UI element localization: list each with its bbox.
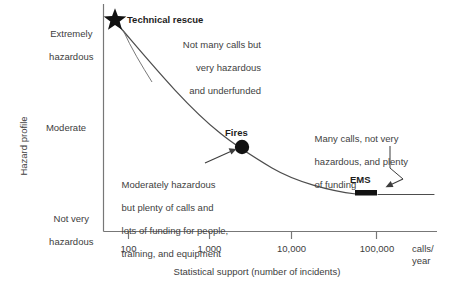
x-axis-unit-line1: calls/ xyxy=(412,243,434,254)
y-axis-title: Hazard profile xyxy=(18,86,29,206)
annotation-fires-line2: but plenty of calls and xyxy=(122,202,214,213)
y-category-not-very-hazardous: Not very hazardous xyxy=(34,201,98,259)
annotation-ems-line2: hazardous, and plenty xyxy=(315,156,408,167)
point-label-technical-rescue: Technical rescue xyxy=(127,14,203,26)
annotation-technical-rescue: Not many calls but very hazardous and un… xyxy=(120,27,261,108)
annotation-fires-line3: lots of funding for people, xyxy=(122,225,229,236)
y-category-extremely-hazardous-line2: hazardous xyxy=(49,51,93,62)
point-label-fires: Fires xyxy=(225,127,248,139)
annotation-technical-rescue-line1: Not many calls but xyxy=(183,39,261,50)
x-axis-unit-label: calls/ year xyxy=(412,243,457,266)
annotation-fires-line4: training, and equipment xyxy=(122,248,221,259)
annotation-ems-line1: Many calls, not very xyxy=(315,133,399,144)
fires-circle-marker xyxy=(235,140,249,154)
y-category-extremely-hazardous: Extremely hazardous xyxy=(34,16,98,74)
fires-leader-arrow xyxy=(205,148,237,163)
annotation-technical-rescue-line3: and underfunded xyxy=(189,85,261,96)
x-tick-label-10000: 10,000 xyxy=(267,243,316,255)
x-tick-label-100000: 100,000 xyxy=(351,243,403,255)
annotation-technical-rescue-line2: very hazardous xyxy=(196,62,261,73)
y-category-not-very-hazardous-line1: Not very xyxy=(54,213,89,224)
y-category-moderate: Moderate xyxy=(34,122,98,134)
annotation-fires: Moderately hazardous but plenty of calls… xyxy=(111,167,261,271)
hazard-profile-chart: Hazard profile Extremely hazardous Moder… xyxy=(0,0,461,292)
y-category-not-very-hazardous-line2: hazardous xyxy=(49,236,93,247)
annotation-ems-line3: of funding xyxy=(315,179,357,190)
x-axis-unit-line2: year xyxy=(412,255,430,266)
annotation-ems: Many calls, not very hazardous, and plen… xyxy=(304,121,439,202)
annotation-fires-line1: Moderately hazardous xyxy=(122,179,216,190)
y-category-extremely-hazardous-line1: Extremely xyxy=(50,28,92,39)
